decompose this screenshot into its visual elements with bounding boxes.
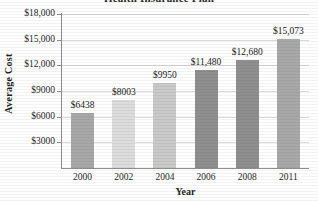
bar (236, 60, 259, 168)
y-axis-tick-label: $3000 (1, 137, 55, 147)
bar-value-label: $11,480 (175, 57, 237, 67)
bar-value-label: $8003 (93, 87, 155, 97)
x-axis-tick-label: 2011 (263, 172, 313, 182)
gridline (62, 142, 309, 143)
bar (112, 100, 135, 168)
y-axis-tick-label: $6000 (1, 112, 55, 122)
gridline (62, 117, 309, 118)
bar-value-label: $9950 (134, 70, 196, 80)
x-axis-line (61, 168, 309, 169)
y-axis-tick-label: $18,000 (1, 9, 55, 19)
bar (195, 70, 218, 168)
bar-value-label: $15,073 (257, 26, 318, 36)
y-axis-tick-label: $15,000 (1, 35, 55, 45)
y-axis-tick-label: $12,000 (1, 60, 55, 70)
y-axis-tick-labels: $3000$6000$9000$12,000$15,000$18,000 (0, 0, 55, 201)
bar-chart-figure: Health Insurance Plan Average Cost Year … (0, 0, 318, 201)
bar (277, 39, 300, 168)
bar-value-label: $6438 (52, 100, 114, 110)
x-axis-title: Year (62, 186, 309, 197)
y-axis-tick-label: $9000 (1, 86, 55, 96)
gridline (62, 14, 309, 15)
bar-value-label: $12,680 (216, 47, 278, 57)
bar (71, 113, 94, 168)
bar (153, 83, 176, 168)
gridline (62, 40, 309, 41)
